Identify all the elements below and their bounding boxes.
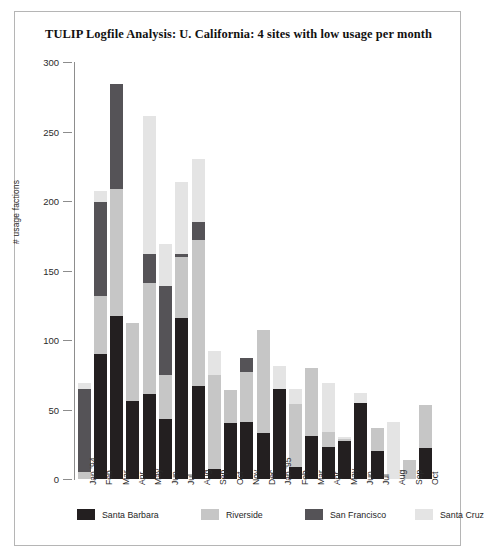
- legend-swatch: [201, 509, 219, 520]
- bar-segment[interactable]: [143, 254, 156, 283]
- bar-stack[interactable]: [192, 62, 205, 479]
- bar-segment[interactable]: [175, 257, 188, 318]
- legend-label: Santa Cruz: [440, 510, 484, 520]
- x-tick-label: Jan '95: [283, 458, 293, 485]
- bar-stack[interactable]: [273, 62, 286, 479]
- y-tick-mark: [63, 201, 72, 202]
- legend-item[interactable]: Santa Cruz: [415, 509, 484, 520]
- x-tick-label: Jul: [186, 474, 196, 485]
- bar-segment[interactable]: [94, 296, 107, 354]
- y-tick-label: 150: [43, 265, 59, 276]
- bar-stack[interactable]: [110, 62, 123, 479]
- bar-stack[interactable]: [371, 62, 384, 479]
- x-tick-label: Aug: [397, 470, 407, 485]
- bar-segment[interactable]: [208, 375, 221, 470]
- legend-item[interactable]: Santa Barbara: [77, 509, 159, 520]
- bar-segment[interactable]: [94, 191, 107, 202]
- bar-stack[interactable]: [240, 62, 253, 479]
- x-tick-label: Jul: [381, 474, 391, 485]
- bar-stack[interactable]: [208, 62, 221, 479]
- chart-legend: Santa BarbaraRiversideSan FranciscoSanta…: [15, 509, 462, 529]
- bar-stack[interactable]: [289, 62, 302, 479]
- x-tick-label: Feb: [104, 470, 114, 485]
- y-tick-mark: [63, 62, 72, 63]
- bar-segment[interactable]: [126, 401, 139, 479]
- bar-segment[interactable]: [240, 372, 253, 422]
- bar-segment[interactable]: [159, 286, 172, 375]
- bar-segment[interactable]: [175, 318, 188, 479]
- legend-item[interactable]: Riverside: [201, 509, 263, 520]
- y-tick-label: 250: [43, 126, 59, 137]
- bar-segment[interactable]: [240, 358, 253, 372]
- bar-segment[interactable]: [126, 323, 139, 401]
- bar-segment[interactable]: [289, 389, 302, 404]
- bar-segment[interactable]: [143, 394, 156, 479]
- bar-segment[interactable]: [322, 383, 335, 432]
- bar-segment[interactable]: [110, 84, 123, 188]
- bar-stack[interactable]: [224, 62, 237, 479]
- y-tick-label: 200: [43, 196, 59, 207]
- bar-segment[interactable]: [159, 375, 172, 419]
- legend-swatch: [305, 509, 323, 520]
- y-tick-mark: [63, 479, 72, 480]
- bar-segment[interactable]: [192, 386, 205, 479]
- bar-stack[interactable]: [159, 62, 172, 479]
- bar-stack[interactable]: [354, 62, 367, 479]
- x-tick-label: Oct: [430, 472, 440, 485]
- x-tick-label: Feb: [300, 470, 310, 485]
- bar-segment[interactable]: [371, 428, 384, 452]
- bar-segment[interactable]: [338, 439, 351, 442]
- chart-title: TULIP Logfile Analysis: U. California: 4…: [15, 27, 462, 42]
- bar-stack[interactable]: [322, 62, 335, 479]
- legend-swatch: [77, 509, 95, 520]
- legend-item[interactable]: San Francisco: [305, 509, 386, 520]
- bar-segment[interactable]: [273, 366, 286, 388]
- x-tick-label: Jun: [365, 471, 375, 485]
- bar-stack[interactable]: [143, 62, 156, 479]
- bar-stack[interactable]: [419, 62, 432, 479]
- y-tick-mark: [63, 132, 72, 133]
- bar-segment[interactable]: [110, 316, 123, 479]
- legend-label: Santa Barbara: [102, 510, 159, 520]
- bar-segment[interactable]: [354, 393, 367, 403]
- bar-stack[interactable]: [126, 62, 139, 479]
- bar-segment[interactable]: [322, 432, 335, 447]
- y-axis-label: # usage factions: [11, 124, 21, 244]
- bar-stack[interactable]: [338, 62, 351, 479]
- bar-stack[interactable]: [257, 62, 270, 479]
- bar-stack[interactable]: [175, 62, 188, 479]
- legend-label: Riverside: [226, 510, 263, 520]
- bar-segment[interactable]: [94, 202, 107, 295]
- x-tick-label: Sep: [218, 470, 228, 485]
- bar-segment[interactable]: [354, 403, 367, 479]
- plot-area: [75, 62, 433, 479]
- bar-segment[interactable]: [305, 368, 318, 436]
- x-tick-label: Sep: [414, 470, 424, 485]
- x-tick-label: May: [153, 469, 163, 485]
- bar-segment[interactable]: [143, 116, 156, 254]
- bar-stack[interactable]: [78, 62, 91, 479]
- bar-segment[interactable]: [224, 390, 237, 423]
- bar-segment[interactable]: [257, 330, 270, 433]
- y-tick-mark: [63, 271, 72, 272]
- bar-segment[interactable]: [143, 283, 156, 394]
- bar-segment[interactable]: [192, 240, 205, 386]
- bar-segment[interactable]: [192, 159, 205, 222]
- bar-segment[interactable]: [175, 254, 188, 257]
- x-tick-label: May: [349, 469, 359, 485]
- bar-stack[interactable]: [305, 62, 318, 479]
- bar-segment[interactable]: [110, 189, 123, 317]
- bar-stack[interactable]: [387, 62, 400, 479]
- bar-segment[interactable]: [78, 383, 91, 389]
- bar-segment[interactable]: [338, 437, 351, 438]
- x-tick-label: Mar: [316, 470, 326, 485]
- bar-stack[interactable]: [403, 62, 416, 479]
- bar-segment[interactable]: [208, 351, 221, 375]
- x-tick-label: Apr: [332, 472, 342, 485]
- bar-segment[interactable]: [159, 244, 172, 286]
- bar-segment[interactable]: [419, 405, 432, 448]
- bar-segment[interactable]: [175, 182, 188, 254]
- y-tick-label: 50: [48, 404, 59, 415]
- bar-segment[interactable]: [192, 222, 205, 240]
- bar-stack[interactable]: [94, 62, 107, 479]
